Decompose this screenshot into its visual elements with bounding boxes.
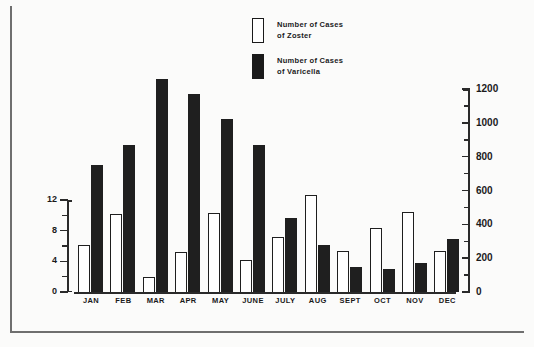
bar-varicella-aug	[318, 245, 330, 292]
bar-varicella-feb	[123, 145, 135, 292]
y-axis-right-tick-label: 0	[476, 287, 482, 297]
bar-varicella-may	[221, 119, 233, 292]
bar-zoster-may	[208, 213, 220, 292]
x-axis-label-dec: DEC	[427, 296, 467, 305]
bar-zoster-jan	[78, 245, 90, 292]
y-axis-right-tick-major	[462, 190, 470, 192]
y-axis-left-tick-label: 4	[35, 256, 57, 265]
bar-zoster-dec	[434, 251, 446, 292]
bar-varicella-apr	[188, 94, 200, 292]
y-axis-left-tick-major	[60, 199, 68, 201]
bar-varicella-mar	[156, 79, 168, 292]
bar-varicella-oct	[383, 269, 395, 292]
y-axis-right-tick-minor	[464, 274, 470, 276]
x-axis-baseline	[74, 292, 456, 294]
y-axis-right-tick-label: 200	[476, 253, 493, 263]
bar-zoster-apr	[175, 252, 187, 292]
bar-zoster-aug	[305, 195, 317, 292]
y-axis-right-tick-label: 800	[476, 152, 493, 162]
y-axis-right-tick-minor	[464, 139, 470, 141]
bar-zoster-july	[272, 237, 284, 292]
y-axis-right-tick-minor	[464, 173, 470, 175]
bar-zoster-mar	[143, 277, 155, 292]
y-axis-left-tick-major	[60, 261, 68, 263]
bar-zoster-feb	[110, 214, 122, 292]
bar-varicella-june	[253, 145, 265, 292]
y-axis-right-tick-minor	[464, 207, 470, 209]
bar-varicella-dec	[447, 239, 459, 292]
bar-varicella-july	[285, 218, 297, 292]
y-axis-left-tick-major	[60, 291, 68, 293]
y-axis-left-tick-minor	[62, 245, 68, 247]
y-axis-left-tick-label: 8	[35, 226, 57, 235]
y-axis-right-tick-label: 1000	[476, 118, 498, 128]
bar-varicella-jan	[91, 165, 103, 292]
y-axis-left-tick-label: 0	[35, 287, 57, 296]
y-axis-right-tick-label: 400	[476, 219, 493, 229]
y-axis-right-tick-label: 600	[476, 186, 493, 196]
y-axis-right-tick-major	[462, 291, 470, 293]
y-axis-right-tick-minor	[464, 241, 470, 243]
y-axis-right-tick-minor	[464, 105, 470, 107]
y-axis-right-tick-major	[462, 257, 470, 259]
y-axis-right-tick-major	[462, 156, 470, 158]
y-axis-left-tick-major	[60, 230, 68, 232]
bar-zoster-nov	[402, 212, 414, 292]
bar-zoster-sept	[337, 251, 349, 292]
y-axis-left-tick-minor	[62, 215, 68, 217]
plot-area: 04812020040060080010001200JANFEBMARAPRMA…	[0, 0, 534, 347]
y-axis-left-tick-minor	[62, 276, 68, 278]
bar-zoster-oct	[370, 228, 382, 292]
y-axis-right-tick-major	[462, 88, 470, 90]
y-axis-left-tick-label: 12	[35, 195, 57, 204]
y-axis-left-labels: 04812	[33, 0, 57, 347]
y-axis-right-tick-major	[462, 122, 470, 124]
chart-figure: Number of Casesof ZosterNumber of Caseso…	[0, 0, 534, 347]
bar-varicella-sept	[350, 267, 362, 292]
y-axis-right-tick-major	[462, 224, 470, 226]
bar-varicella-nov	[415, 263, 427, 292]
bar-zoster-june	[240, 260, 252, 292]
y-axis-right-tick-label: 1200	[476, 84, 498, 94]
